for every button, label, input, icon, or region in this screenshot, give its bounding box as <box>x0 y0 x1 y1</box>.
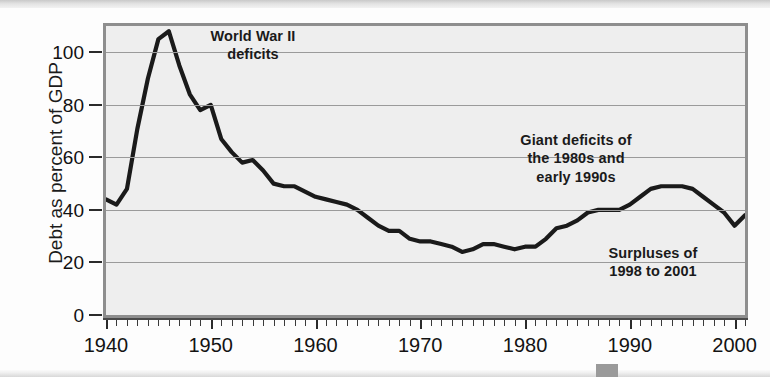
x-tick-1941 <box>116 320 117 326</box>
x-tick-1997 <box>703 320 704 326</box>
x-axis <box>103 318 748 332</box>
x-tick-1940 <box>106 320 108 329</box>
annotation-wwii-line2: deficits <box>227 46 279 62</box>
y-tick-label-0: 0 <box>40 306 84 325</box>
x-tick-label-1950: 1950 <box>189 334 234 357</box>
x-tick-1973 <box>452 320 453 326</box>
x-tick-label-1970: 1970 <box>398 334 443 357</box>
x-tick-1951 <box>221 320 222 326</box>
y-tick-label-40: 40 <box>40 201 84 220</box>
x-tick-1955 <box>263 320 264 326</box>
x-tick-2001 <box>745 320 746 326</box>
x-tick-1996 <box>693 320 694 326</box>
x-tick-1946 <box>169 320 170 326</box>
x-tick-1959 <box>305 320 306 326</box>
x-tick-1963 <box>347 320 348 326</box>
x-tick-1942 <box>127 320 128 326</box>
x-tick-1974 <box>462 320 463 326</box>
x-tick-1961 <box>326 320 327 326</box>
x-tick-1962 <box>336 320 337 326</box>
x-tick-1995 <box>682 320 683 326</box>
x-tick-1965 <box>368 320 369 326</box>
x-tick-2000 <box>735 320 737 329</box>
x-tick-1958 <box>295 320 296 326</box>
x-tick-1994 <box>672 320 673 326</box>
scan-artifact-top <box>0 0 770 8</box>
y-tick-mark-0 <box>89 314 102 316</box>
x-tick-1967 <box>389 320 390 326</box>
y-tick-mark-100 <box>89 51 102 53</box>
x-tick-1993 <box>661 320 662 326</box>
chart-figure: Debt as percent of GDP 100806040200 1940… <box>0 0 770 377</box>
x-tick-1979 <box>515 320 516 326</box>
x-tick-1986 <box>588 320 589 326</box>
y-axis-ticks: 100806040200 <box>40 23 103 318</box>
scan-artifact-bottom <box>0 370 770 377</box>
x-tick-1948 <box>190 320 191 326</box>
x-tick-1968 <box>399 320 400 326</box>
x-tick-1949 <box>200 320 201 326</box>
x-tick-1960 <box>316 320 318 329</box>
gridline-40 <box>106 210 745 211</box>
x-tick-1991 <box>640 320 641 326</box>
x-tick-1985 <box>577 320 578 326</box>
x-tick-1944 <box>148 320 149 326</box>
y-tick-label-100: 100 <box>40 43 84 62</box>
y-tick-label-20: 20 <box>40 253 84 272</box>
x-tick-1970 <box>420 320 422 329</box>
x-tick-1989 <box>619 320 620 326</box>
x-tick-label-1980: 1980 <box>503 334 548 357</box>
x-tick-label-2000: 2000 <box>712 334 757 357</box>
x-tick-1945 <box>158 320 159 326</box>
annotation-world-war-ii: World War IIdeficits <box>173 27 333 64</box>
annotation-surplus-line2: 1998 to 2001 <box>609 263 696 279</box>
x-tick-label-1990: 1990 <box>608 334 653 357</box>
x-tick-1947 <box>179 320 180 326</box>
x-tick-1988 <box>609 320 610 326</box>
x-tick-1972 <box>441 320 442 326</box>
annotation-giant-line2: the 1980s and <box>527 150 624 166</box>
x-tick-1966 <box>378 320 379 326</box>
x-tick-1953 <box>242 320 243 326</box>
x-tick-1981 <box>535 320 536 326</box>
x-tick-1943 <box>137 320 138 326</box>
y-tick-mark-80 <box>89 104 102 106</box>
x-tick-1990 <box>630 320 632 329</box>
scan-artifact-mark <box>596 364 618 377</box>
x-tick-1964 <box>357 320 358 326</box>
x-tick-1978 <box>504 320 505 326</box>
y-tick-label-60: 60 <box>40 148 84 167</box>
annotation-giant-line1: Giant deficits of <box>520 132 631 148</box>
x-tick-1952 <box>232 320 233 326</box>
x-tick-1992 <box>651 320 652 326</box>
x-tick-1976 <box>483 320 484 326</box>
gridline-80 <box>106 105 745 106</box>
x-tick-1954 <box>253 320 254 326</box>
x-tick-1957 <box>284 320 285 326</box>
x-tick-1987 <box>598 320 599 326</box>
x-tick-1984 <box>567 320 568 326</box>
x-tick-1977 <box>494 320 495 326</box>
x-tick-1950 <box>211 320 213 329</box>
annotation-giant-deficits: Giant deficits ofthe 1980s andearly 1990… <box>490 131 662 186</box>
x-tick-1982 <box>546 320 547 326</box>
x-tick-1980 <box>525 320 527 329</box>
y-tick-mark-40 <box>89 209 102 211</box>
annotation-surplus-line1: Surpluses of <box>608 245 697 261</box>
x-tick-label-1960: 1960 <box>293 334 338 357</box>
annotation-giant-line3: early 1990s <box>536 169 615 185</box>
y-tick-mark-60 <box>89 156 102 158</box>
annotation-wwii-line1: World War II <box>211 28 296 44</box>
x-tick-1969 <box>410 320 411 326</box>
x-tick-1983 <box>556 320 557 326</box>
x-tick-1956 <box>274 320 275 326</box>
y-tick-mark-20 <box>89 261 102 263</box>
x-tick-label-1940: 1940 <box>84 334 129 357</box>
x-tick-1975 <box>473 320 474 326</box>
y-tick-label-80: 80 <box>40 96 84 115</box>
x-tick-1998 <box>714 320 715 326</box>
annotation-surpluses: Surpluses of1998 to 2001 <box>567 244 739 281</box>
x-tick-1971 <box>431 320 432 326</box>
x-tick-1999 <box>724 320 725 326</box>
